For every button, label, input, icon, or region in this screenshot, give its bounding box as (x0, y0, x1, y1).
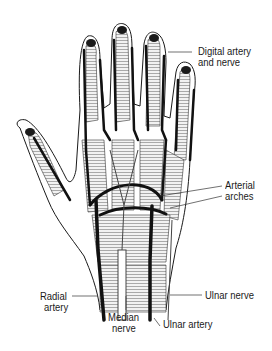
label-ulnar-artery: Ulnar artery (163, 319, 212, 330)
label-median-nerve-line2: nerve (112, 323, 136, 334)
label-arterial-arches-line2: arches (225, 191, 253, 202)
label-ulnar-nerve: Ulnar nerve (205, 290, 254, 301)
label-digital-artery-line2: and nerve (198, 57, 240, 68)
label-radial-artery-line2: artery (44, 302, 68, 313)
